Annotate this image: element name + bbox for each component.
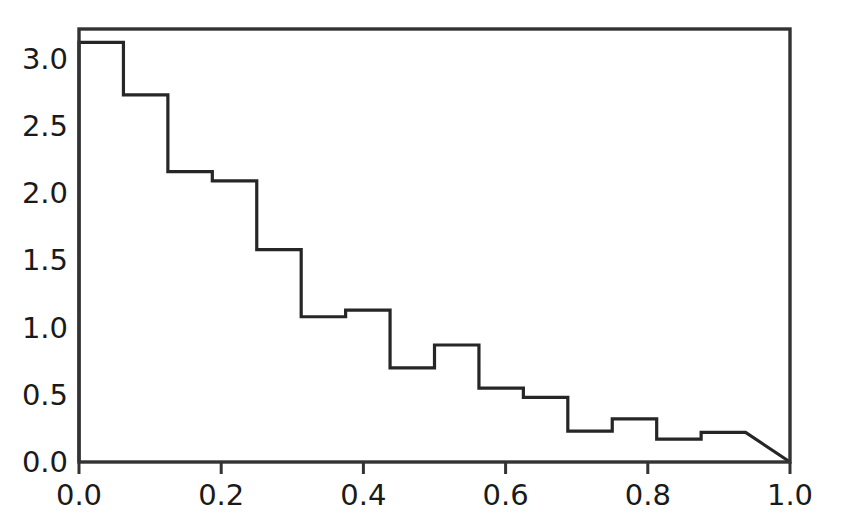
- plot-background: [79, 29, 790, 462]
- y-tick-label: 2.5: [0, 109, 68, 143]
- y-tick-label: 1.5: [0, 243, 68, 277]
- x-tick-label: 0.2: [198, 478, 244, 512]
- x-tick-label: 1.0: [767, 478, 813, 512]
- x-tick-label: 0.0: [56, 478, 102, 512]
- y-tick-label: 0.0: [0, 445, 68, 479]
- y-tick-label: 3.0: [0, 42, 68, 76]
- x-tick-marks: [79, 462, 790, 474]
- x-tick-label: 0.8: [625, 478, 671, 512]
- histogram-figure: 0.00.51.01.52.02.53.0 0.00.20.40.60.81.0: [0, 0, 847, 518]
- y-tick-label: 0.5: [0, 378, 68, 412]
- histogram-plot: [0, 0, 847, 518]
- x-tick-label: 0.4: [340, 478, 386, 512]
- x-tick-label: 0.6: [483, 478, 529, 512]
- y-tick-label: 1.0: [0, 311, 68, 345]
- y-tick-label: 2.0: [0, 176, 68, 210]
